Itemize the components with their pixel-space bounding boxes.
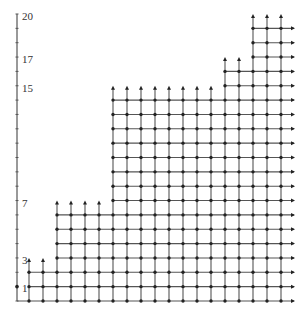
arrow-right-icon — [291, 227, 295, 231]
arrow-up-icon — [97, 201, 101, 205]
lattice-node — [237, 242, 240, 245]
lattice-node — [251, 271, 254, 274]
lattice-node — [237, 271, 240, 274]
arrow-right-icon — [291, 26, 295, 30]
lattice-node — [265, 170, 268, 173]
lattice-node — [279, 299, 282, 302]
lattice-node — [97, 242, 100, 245]
arrow-right-icon — [291, 41, 295, 45]
lattice-node — [251, 185, 254, 188]
lattice-node — [209, 98, 212, 101]
lattice-node — [55, 228, 58, 231]
arrow-right-icon — [291, 256, 295, 260]
lattice-node — [251, 199, 254, 202]
lattice-node — [237, 127, 240, 130]
lattice-node — [209, 299, 212, 302]
lattice-node — [195, 256, 198, 259]
lattice-node — [223, 113, 226, 116]
lattice-node — [97, 228, 100, 231]
y-label-7: 7 — [22, 198, 28, 209]
arrow-up-icon — [265, 14, 269, 18]
lattice-node — [237, 84, 240, 87]
lattice-node — [83, 213, 86, 216]
lattice-node — [209, 271, 212, 274]
y-label-3: 3 — [22, 255, 28, 266]
lattice-node — [223, 299, 226, 302]
lattice-node — [265, 228, 268, 231]
lattice-node — [209, 242, 212, 245]
lattice-node — [251, 84, 254, 87]
lattice-node — [209, 228, 212, 231]
arrow-up-icon — [279, 14, 283, 18]
lattice-node — [125, 256, 128, 259]
lattice-node — [111, 141, 114, 144]
lattice-node — [195, 199, 198, 202]
lattice-node — [153, 127, 156, 130]
arrow-up-icon — [237, 57, 241, 61]
lattice-node — [265, 299, 268, 302]
lattice-node — [125, 185, 128, 188]
lattice-node — [27, 271, 30, 274]
y-label-20: 20 — [22, 11, 33, 22]
lattice-node — [265, 213, 268, 216]
arrow-right-icon — [291, 299, 295, 303]
lattice-node — [111, 98, 114, 101]
lattice-node — [153, 113, 156, 116]
lattice-node — [167, 113, 170, 116]
lattice-node — [97, 285, 100, 288]
lattice-node — [139, 199, 142, 202]
arrow-right-icon — [291, 156, 295, 160]
lattice-node — [279, 141, 282, 144]
lattice-node — [195, 156, 198, 159]
arrow-up-icon — [181, 86, 185, 90]
lattice-node — [223, 141, 226, 144]
lattice-node — [251, 285, 254, 288]
lattice-node — [237, 185, 240, 188]
lattice-node — [167, 285, 170, 288]
lattice-node — [167, 213, 170, 216]
lattice-node — [167, 127, 170, 130]
arrow-up-icon — [153, 86, 157, 90]
lattice-node — [139, 271, 142, 274]
lattice-node — [223, 213, 226, 216]
lattice-node — [251, 113, 254, 116]
lattice-node — [153, 299, 156, 302]
lattice-node — [237, 256, 240, 259]
arrow-right-icon — [291, 213, 295, 217]
lattice-node — [237, 199, 240, 202]
lattice-node — [265, 113, 268, 116]
lattice-node — [167, 256, 170, 259]
lattice-node — [55, 256, 58, 259]
lattice-node — [139, 299, 142, 302]
lattice-node — [209, 141, 212, 144]
y-label-15: 15 — [22, 83, 33, 94]
arrow-right-icon — [291, 55, 295, 59]
lattice-node — [279, 271, 282, 274]
lattice-node — [237, 98, 240, 101]
lattice-node — [223, 170, 226, 173]
lattice-node — [153, 199, 156, 202]
lattice-node — [111, 213, 114, 216]
lattice-node — [209, 170, 212, 173]
lattice-node — [265, 27, 268, 30]
lattice-node — [265, 41, 268, 44]
arrow-up-icon — [251, 14, 255, 18]
arrow-up-icon — [83, 201, 87, 205]
lattice-node — [125, 199, 128, 202]
lattice-node — [251, 228, 254, 231]
lattice-node — [97, 271, 100, 274]
lattice-node — [55, 299, 58, 302]
lattice-node — [181, 141, 184, 144]
lattice-node — [251, 170, 254, 173]
lattice-node — [251, 156, 254, 159]
lattice-node — [181, 98, 184, 101]
lattice-node — [209, 285, 212, 288]
lattice-node — [279, 199, 282, 202]
lattice-node — [167, 199, 170, 202]
lattice-node — [223, 156, 226, 159]
lattice-node — [139, 156, 142, 159]
lattice-diagram — [0, 0, 308, 310]
lattice-node — [181, 285, 184, 288]
lattice-node — [223, 228, 226, 231]
arrow-up-icon — [55, 201, 59, 205]
